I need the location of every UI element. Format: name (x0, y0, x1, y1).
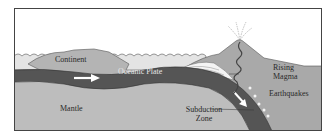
label-magma: Magma (273, 73, 297, 81)
label-subduction: Subduction (181, 106, 227, 114)
label-continent: Continent (55, 56, 87, 64)
label-oceanic-plate: Oceanic Plate (118, 68, 162, 76)
label-zone: Zone (181, 115, 227, 123)
label-earthquakes: Earthquakes (269, 90, 309, 98)
subduction-diagram: Continent Oceanic Plate Mantle Rising Ma… (14, 8, 322, 131)
label-mantle: Mantle (60, 105, 83, 113)
label-rising: Rising (273, 64, 294, 72)
